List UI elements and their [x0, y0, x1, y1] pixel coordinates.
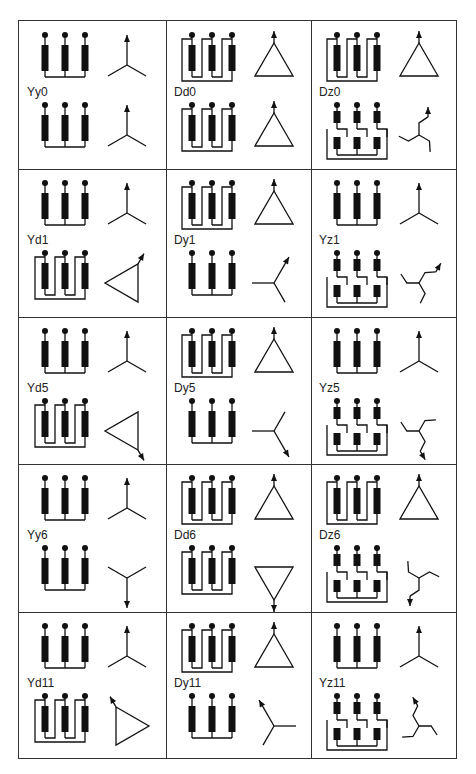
phasor-y: [108, 478, 146, 519]
phasor-z: [401, 420, 436, 460]
phasor-y: [108, 567, 146, 608]
winding-y: [189, 398, 236, 443]
vector-group-cell: Dy5: [166, 317, 311, 464]
winding-y: [42, 102, 89, 147]
vector-group-cell: Yz5: [311, 317, 458, 464]
phasor-d: [105, 412, 144, 460]
vector-group-label: Yd1: [27, 233, 48, 247]
winding-d: [327, 32, 381, 81]
winding-z: [327, 398, 387, 455]
winding-y: [189, 693, 236, 738]
vector-group-cell: Yy6: [19, 464, 166, 612]
phasor-y: [400, 626, 438, 667]
vector-group-label: Dz6: [319, 528, 340, 542]
vector-group-cell: Yd5: [19, 317, 166, 464]
winding-y: [189, 250, 236, 295]
phasor-y: [252, 257, 289, 302]
vector-group-label: Yz5: [319, 381, 340, 395]
phasor-y: [108, 626, 146, 667]
vector-group-label: Yd5: [27, 381, 48, 395]
phasor-d: [255, 474, 293, 519]
phasor-z: [402, 697, 437, 737]
phasor-d: [255, 101, 293, 146]
vector-group-label: Yy0: [27, 85, 48, 99]
vector-group-label: Yd11: [27, 676, 54, 690]
vector-group-cell: Yd11: [19, 612, 166, 760]
winding-d: [182, 328, 236, 377]
winding-y: [334, 328, 381, 373]
vector-group-label: Dy1: [174, 233, 195, 247]
phasor-y: [108, 183, 146, 224]
winding-d: [182, 32, 236, 81]
vector-group-cell: Yz11: [311, 612, 458, 760]
vector-group-cell: Yy0: [19, 21, 166, 169]
winding-y: [334, 180, 381, 225]
winding-z: [327, 545, 387, 602]
phasor-d: [400, 31, 438, 76]
vector-group-cell: Yd1: [19, 169, 166, 317]
winding-z: [327, 102, 387, 159]
vector-group-label: Dd6: [174, 528, 196, 542]
vector-group-cell: Dy1: [166, 169, 311, 317]
phasor-d: [255, 31, 293, 76]
vector-group-cell: Dy11: [166, 612, 311, 760]
phasor-z: [407, 561, 439, 606]
phasor-y: [259, 700, 296, 745]
phasor-d: [255, 622, 293, 667]
phasor-y: [400, 331, 438, 372]
vector-group-label: Dd0: [174, 85, 196, 99]
phasor-y: [252, 412, 289, 457]
vector-group-label: Yy6: [27, 528, 48, 542]
winding-y: [42, 328, 89, 373]
vector-group-cell: Dd6: [166, 464, 311, 612]
phasor-d: [400, 474, 438, 519]
vector-group-cell: Dd0: [166, 21, 311, 169]
winding-y: [42, 180, 89, 225]
phasor-z: [399, 107, 431, 152]
winding-z: [327, 693, 387, 750]
vector-group-label: Dy5: [174, 381, 195, 395]
phasor-d: [255, 179, 293, 224]
phasor-d: [255, 567, 293, 612]
winding-d: [182, 475, 236, 524]
vector-group-label: Dz0: [319, 85, 340, 99]
winding-d: [182, 623, 236, 672]
winding-d: [182, 545, 236, 594]
vector-group-table: Yy0Dd0Dz0Yd1Dy1Yz1Yd5Dy5Yz5Yy6Dd6Dz6Yd11…: [18, 20, 457, 759]
winding-d: [35, 250, 89, 299]
vector-group-cell: Yz1: [311, 169, 458, 317]
winding-y: [42, 475, 89, 520]
winding-y: [42, 545, 89, 590]
vector-group-cell: Dz0: [311, 21, 458, 169]
phasor-z: [401, 263, 441, 303]
phasor-y: [108, 35, 146, 76]
winding-d: [35, 693, 89, 742]
winding-y: [42, 623, 89, 668]
winding-d: [327, 475, 381, 524]
vector-group-label: Dy11: [174, 676, 201, 690]
vector-group-label: Yz1: [319, 233, 340, 247]
winding-y: [334, 623, 381, 668]
winding-y: [42, 32, 89, 77]
winding-d: [182, 180, 236, 229]
phasor-d: [105, 254, 144, 302]
winding-z: [327, 250, 387, 307]
phasor-y: [108, 331, 146, 372]
winding-d: [182, 102, 236, 151]
phasor-d: [255, 327, 293, 372]
vector-group-cell: Dz6: [311, 464, 458, 612]
phasor-d: [110, 697, 149, 745]
vector-group-label: Yz11: [319, 676, 345, 690]
phasor-y: [108, 105, 146, 146]
phasor-y: [400, 183, 438, 224]
winding-d: [35, 398, 89, 447]
